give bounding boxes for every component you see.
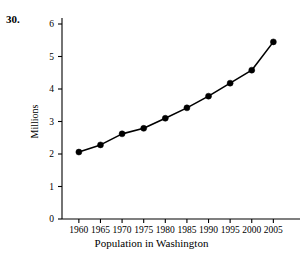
- y-axis-title: Millions: [29, 104, 40, 138]
- x-tick-label: 1960: [69, 225, 88, 235]
- x-tick-label: 1965: [91, 225, 110, 235]
- x-tick-label: 1995: [221, 225, 240, 235]
- y-tick-label: 4: [49, 84, 54, 94]
- x-tick-label: 1975: [134, 225, 153, 235]
- x-tick-label: 1990: [199, 225, 218, 235]
- line-chart-svg: 0123456 19601965197019751980198519901995…: [0, 0, 303, 258]
- x-tick-label: 2000: [242, 225, 261, 235]
- x-tick-label: 2005: [264, 225, 283, 235]
- data-point-marker: [76, 149, 82, 155]
- y-tick-label: 1: [49, 182, 54, 192]
- data-point-marker: [162, 115, 168, 121]
- data-point-marker: [119, 131, 125, 137]
- data-point-marker: [206, 93, 212, 99]
- y-axis-title-label: Millions: [29, 104, 40, 138]
- y-tick-label: 2: [49, 149, 54, 159]
- y-axis: 0123456: [49, 18, 62, 224]
- data-point-marker: [270, 39, 276, 45]
- x-axis: 1960196519701975198019851990199520002005: [62, 219, 300, 235]
- data-series-population: [76, 39, 276, 155]
- data-point-marker: [184, 105, 190, 111]
- chart-plot-area: 0123456 19601965197019751980198519901995…: [0, 0, 303, 258]
- figure-container: 30. 0123456 1960196519701975198019851990…: [0, 0, 303, 258]
- y-tick-label: 5: [49, 52, 54, 62]
- data-point-marker: [227, 80, 233, 86]
- y-tick-label: 6: [49, 19, 54, 29]
- data-point-marker: [249, 67, 255, 73]
- x-tick-label: 1980: [156, 225, 175, 235]
- data-point-marker: [141, 125, 147, 131]
- y-tick-label: 0: [49, 214, 54, 224]
- x-tick-label: 1970: [113, 225, 132, 235]
- x-tick-label: 1985: [177, 225, 196, 235]
- y-tick-label: 3: [49, 117, 54, 127]
- data-point-marker: [97, 142, 103, 148]
- x-axis-title-label: Population in Washington: [0, 237, 303, 250]
